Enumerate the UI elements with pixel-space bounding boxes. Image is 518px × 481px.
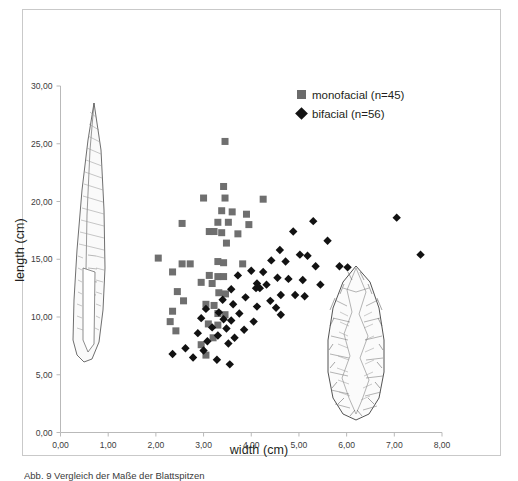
chart-legend: monofacial (n=45) bifacial (n=56) [297, 86, 447, 124]
scatter-points-layer [155, 138, 425, 369]
data-point-bifacial [311, 262, 319, 270]
data-point-bifacial [226, 360, 234, 368]
data-point-monofacial [200, 195, 207, 202]
data-point-monofacial [220, 273, 227, 280]
data-point-monofacial [167, 318, 174, 325]
data-point-monofacial [222, 138, 229, 145]
figure-caption: Abb. 9 Vergleich der Maße der Blattspitz… [24, 470, 494, 481]
data-point-bifacial [197, 314, 205, 322]
data-point-monofacial [198, 279, 205, 286]
data-point-monofacial [187, 260, 194, 267]
data-point-monofacial [234, 230, 241, 237]
data-point-bifacial [309, 217, 317, 225]
data-point-monofacial [239, 260, 246, 267]
x-axis-title: width (cm) [0, 443, 518, 457]
data-point-bifacial [277, 310, 285, 318]
data-point-bifacial [249, 317, 257, 325]
data-point-bifacial [300, 292, 308, 300]
data-point-bifacial [392, 213, 400, 221]
data-point-monofacial [180, 297, 187, 304]
data-point-bifacial [267, 256, 275, 264]
data-point-monofacial [211, 302, 218, 309]
legend-item-monofacial[interactable]: monofacial (n=45) [297, 86, 447, 103]
square-marker-icon [297, 90, 306, 99]
data-point-bifacial [266, 297, 274, 305]
data-point-bifacial [343, 263, 351, 271]
y-tick-label: 5,00 [13, 370, 53, 380]
data-point-bifacial [229, 300, 237, 308]
data-point-bifacial [272, 304, 280, 312]
data-point-monofacial [245, 221, 252, 228]
data-point-monofacial [169, 308, 176, 315]
data-point-bifacial [194, 329, 202, 337]
data-point-bifacial [253, 302, 261, 310]
data-point-bifacial [235, 309, 243, 317]
x-axis-ticks [61, 433, 443, 437]
data-point-bifacial [289, 227, 297, 235]
figure-container: 0,005,0010,0015,0020,0025,0030,00 0,001,… [0, 0, 518, 481]
data-point-bifacial [277, 291, 285, 299]
data-point-monofacial [225, 219, 232, 226]
data-point-bifacial [259, 268, 267, 276]
y-tick-label: 30,00 [13, 81, 53, 91]
data-point-bifacial [222, 324, 230, 332]
data-point-bifacial [262, 280, 270, 288]
data-point-bifacial [241, 293, 249, 301]
data-point-bifacial [335, 262, 343, 270]
legend-label-monofacial: monofacial (n=45) [312, 89, 404, 101]
y-tick-label: 25,00 [13, 139, 53, 149]
legend-item-bifacial[interactable]: bifacial (n=56) [297, 105, 447, 122]
data-point-monofacial [214, 219, 221, 226]
data-point-monofacial [169, 268, 176, 275]
data-point-bifacial [224, 339, 232, 347]
diamond-marker-icon [295, 107, 308, 120]
data-point-bifacial [296, 250, 304, 258]
data-point-bifacial [213, 356, 221, 364]
data-point-bifacial [189, 353, 197, 361]
data-point-monofacial [179, 260, 186, 267]
data-point-bifacial [291, 291, 299, 299]
chart-canvas [0, 0, 518, 481]
data-point-bifacial [281, 257, 289, 265]
data-point-bifacial [284, 275, 292, 283]
legend-label-bifacial: bifacial (n=56) [312, 108, 385, 120]
data-point-monofacial [222, 195, 229, 202]
data-point-bifacial [303, 252, 311, 260]
data-point-bifacial [181, 344, 189, 352]
data-point-bifacial [316, 280, 324, 288]
data-point-bifacial [168, 350, 176, 358]
data-point-bifacial [230, 334, 238, 342]
data-point-bifacial [299, 276, 307, 284]
data-point-bifacial [234, 271, 242, 279]
y-axis-title: length (cm) [13, 170, 27, 330]
data-point-monofacial [223, 240, 230, 247]
data-point-monofacial [179, 220, 186, 227]
data-point-monofacial [206, 272, 213, 279]
data-point-monofacial [243, 211, 250, 218]
data-point-monofacial [155, 255, 162, 262]
data-point-monofacial [172, 327, 179, 334]
data-point-bifacial [416, 250, 424, 258]
y-tick-label: 0,00 [13, 428, 53, 438]
data-point-monofacial [174, 288, 181, 295]
data-point-monofacial [209, 280, 216, 287]
data-point-monofacial [215, 289, 222, 296]
data-point-monofacial [260, 196, 267, 203]
data-point-monofacial [211, 228, 218, 235]
data-point-bifacial [240, 326, 248, 334]
data-point-monofacial [218, 229, 225, 236]
monofacial-blade-drawing [73, 103, 105, 362]
y-axis-ticks [57, 86, 61, 433]
data-point-bifacial [273, 274, 281, 282]
data-point-monofacial [220, 183, 227, 190]
data-point-bifacial [323, 237, 331, 245]
data-point-bifacial [247, 267, 255, 275]
data-point-monofacial [218, 207, 225, 214]
data-point-bifacial [276, 246, 284, 254]
data-point-monofacial [229, 208, 236, 215]
bifacial-leaf-point-drawing [328, 266, 384, 420]
data-point-monofacial [220, 259, 227, 266]
